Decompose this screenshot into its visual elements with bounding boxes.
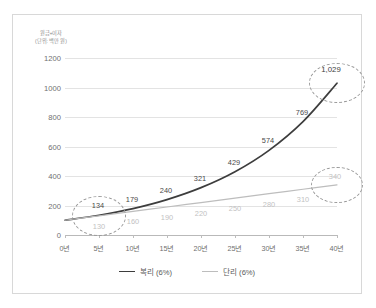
- data-label-simple-30: 280: [263, 199, 275, 208]
- caption-line-1: 원금+이자: [35, 30, 67, 38]
- data-label-compound-40: 1,029: [321, 65, 341, 74]
- legend-label: 복리 (6%): [140, 266, 172, 277]
- data-label-simple-10: 160: [127, 217, 139, 226]
- data-label-compound-20: 321: [194, 173, 206, 182]
- x-tick-label-15: 15년: [160, 243, 175, 253]
- x-tick-label-10: 10년: [126, 243, 141, 253]
- data-label-simple-5: 130: [93, 221, 105, 230]
- data-label-simple-20: 220: [195, 208, 207, 217]
- data-label-simple-25: 250: [229, 204, 241, 213]
- x-tick-label-5: 5년: [94, 243, 105, 253]
- axis-unit-caption: 원금+이자 (단위: 백만 원): [35, 30, 67, 45]
- x-tickmark-20: [201, 235, 202, 238]
- x-tickmark-0: [65, 235, 66, 238]
- x-tick-label-0: 0년: [60, 243, 71, 253]
- data-label-simple-35: 310: [297, 195, 309, 204]
- y-tick-label-0: 0: [57, 231, 61, 240]
- x-tick-label-35: 35년: [296, 243, 311, 253]
- data-label-simple-15: 190: [161, 212, 173, 221]
- x-tickmark-25: [235, 235, 236, 238]
- data-label-compound-5: 134: [92, 201, 104, 210]
- x-tickmark-40: [337, 235, 338, 238]
- legend-label: 단리 (6%): [223, 266, 255, 277]
- caption-line-2: (단위: 백만 원): [35, 38, 67, 46]
- y-tick-label-1000: 1000: [44, 83, 61, 92]
- x-tick-label-40: 40년: [330, 243, 345, 253]
- y-tick-label-400: 400: [48, 172, 61, 181]
- x-tickmark-10: [133, 235, 134, 238]
- y-tick-label-1200: 1200: [44, 54, 61, 63]
- chart-figure: 원금+이자 (단위: 백만 원) 020040060080010001200 0…: [12, 14, 362, 294]
- legend-swatch-icon: [119, 271, 135, 272]
- x-tickmark-15: [167, 235, 168, 238]
- data-label-compound-15: 240: [160, 185, 172, 194]
- legend-item-simple[interactable]: 단리 (6%): [202, 266, 255, 277]
- y-tick-label-800: 800: [48, 113, 61, 122]
- x-tick-label-25: 25년: [228, 243, 243, 253]
- legend-swatch-icon: [202, 271, 218, 272]
- plot-area: 020040060080010001200 0년5년10년15년20년25년30…: [65, 58, 337, 235]
- chart-legend: 복리 (6%)단리 (6%): [13, 266, 361, 277]
- legend-item-compound[interactable]: 복리 (6%): [119, 266, 172, 277]
- data-label-simple-40: 340: [329, 171, 341, 180]
- data-label-compound-30: 574: [262, 136, 274, 145]
- x-tickmark-30: [269, 235, 270, 238]
- x-tick-label-30: 30년: [262, 243, 277, 253]
- x-tick-label-20: 20년: [194, 243, 209, 253]
- y-tick-label-600: 600: [48, 142, 61, 151]
- data-label-compound-10: 179: [126, 194, 138, 203]
- x-tickmark-5: [99, 235, 100, 238]
- x-tickmark-35: [303, 235, 304, 238]
- data-label-compound-35: 769: [296, 107, 308, 116]
- data-label-compound-25: 429: [228, 157, 240, 166]
- y-tick-label-200: 200: [48, 201, 61, 210]
